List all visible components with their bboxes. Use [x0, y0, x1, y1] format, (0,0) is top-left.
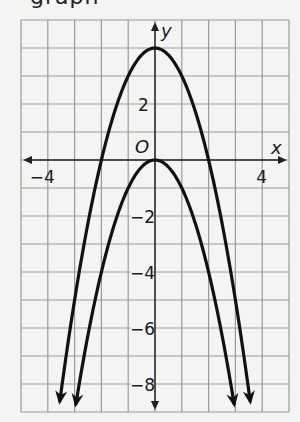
y-tick-label: −8 — [130, 375, 155, 395]
origin-label: O — [135, 136, 149, 157]
coordinate-plane: yxO−442−2−4−6−8 — [0, 0, 300, 422]
x-tick-label: 4 — [256, 167, 267, 187]
y-axis-down-arrow-icon — [151, 401, 159, 410]
y-tick-label: −2 — [130, 207, 155, 227]
y-tick-label: −6 — [130, 319, 155, 339]
y-axis-label: y — [160, 20, 172, 41]
x-tick-label: −4 — [30, 167, 55, 187]
y-tick-label: −4 — [130, 263, 155, 283]
x-axis-label: x — [270, 137, 282, 158]
y-axis-up-arrow-icon — [151, 22, 159, 31]
x-axis-left-arrow-icon — [23, 156, 32, 164]
y-tick-label: 2 — [138, 95, 149, 115]
